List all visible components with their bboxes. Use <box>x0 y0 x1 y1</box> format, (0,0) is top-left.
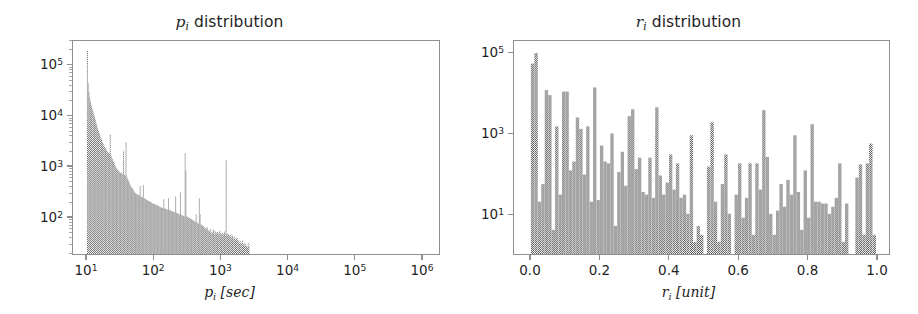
x-tick-major <box>529 255 530 260</box>
y-tick-minor <box>69 253 72 254</box>
y-tick-minor <box>69 123 72 124</box>
y-tick-minor <box>69 72 72 73</box>
y-tick-major <box>67 165 72 166</box>
y-tick-minor <box>69 171 72 172</box>
y-tick-minor <box>69 237 72 238</box>
y-tick-label: 101 <box>481 206 504 222</box>
y-tick-minor <box>69 67 72 68</box>
x-tick-major <box>738 255 739 260</box>
y-tick-major <box>508 214 513 215</box>
plot-area-p <box>73 41 439 254</box>
y-tick-minor <box>69 69 72 70</box>
x-tick-major <box>668 255 669 260</box>
y-tick-minor <box>69 228 72 229</box>
y-tick-major <box>67 216 72 217</box>
y-tick-minor <box>69 118 72 119</box>
x-tick-label: 0.2 <box>589 262 610 278</box>
y-tick-minor <box>69 219 72 220</box>
y-tick-minor <box>69 120 72 121</box>
y-tick-minor <box>69 177 72 178</box>
figure-two-histograms: pi distribution 102103104105101102103104… <box>0 0 918 314</box>
axes-p-distribution <box>72 40 440 255</box>
x-tick-major <box>807 255 808 260</box>
x-tick-major <box>599 255 600 260</box>
title-text-p: distribution <box>189 13 284 31</box>
y-tick-minor <box>69 181 72 182</box>
y-tick-minor <box>69 232 72 233</box>
y-tick-label: 103 <box>40 158 63 174</box>
y-tick-major <box>67 64 72 65</box>
xlabel-var-p: p <box>204 284 213 300</box>
y-tick-minor <box>69 174 72 175</box>
histogram-bars-p <box>73 41 439 254</box>
x-tick-major <box>220 255 221 260</box>
y-tick-label: 103 <box>481 125 504 141</box>
y-tick-minor <box>69 91 72 92</box>
y-tick-label: 105 <box>481 44 504 60</box>
xaxis-title-p: pi [sec] <box>0 284 459 302</box>
y-tick-minor <box>69 85 72 86</box>
xlabel-unit-r: [unit] <box>672 284 716 300</box>
title-var-p: p <box>175 13 185 31</box>
y-tick-minor <box>69 100 72 101</box>
xaxis-title-r: ri [unit] <box>459 284 918 302</box>
x-tick-label: 0.6 <box>727 262 748 278</box>
x-tick-label: 1.0 <box>866 262 887 278</box>
x-tick-label: 101 <box>74 262 97 278</box>
plot-area-r <box>514 41 889 254</box>
xlabel-var-r: r <box>662 284 669 300</box>
x-tick-major <box>421 255 422 260</box>
y-tick-major <box>67 115 72 116</box>
panel-title-p: pi distribution <box>0 13 459 32</box>
y-tick-minor <box>69 186 72 187</box>
y-tick-major <box>508 52 513 53</box>
y-tick-minor <box>69 193 72 194</box>
y-tick-minor <box>69 151 72 152</box>
axes-r-distribution <box>513 40 890 255</box>
y-tick-minor <box>69 135 72 136</box>
y-tick-minor <box>69 49 72 50</box>
x-tick-label: 102 <box>142 262 165 278</box>
x-tick-label: 0.4 <box>658 262 679 278</box>
y-tick-minor <box>69 202 72 203</box>
xlabel-unit-p: [sec] <box>216 284 255 300</box>
x-tick-label: 0.8 <box>797 262 818 278</box>
y-tick-minor <box>69 40 72 41</box>
title-text-r: distribution <box>647 13 742 31</box>
y-tick-minor <box>69 168 72 169</box>
y-tick-minor <box>69 76 72 77</box>
x-tick-label: 106 <box>410 262 433 278</box>
y-tick-minor <box>69 142 72 143</box>
y-tick-minor <box>69 131 72 132</box>
x-tick-label: 105 <box>343 262 366 278</box>
panel-title-r: ri distribution <box>459 13 918 32</box>
y-tick-minor <box>69 80 72 81</box>
x-tick-label: 0.0 <box>519 262 540 278</box>
y-tick-minor <box>69 244 72 245</box>
y-tick-minor <box>69 225 72 226</box>
x-tick-label: 104 <box>276 262 299 278</box>
x-tick-major <box>876 255 877 260</box>
panel-p-distribution: pi distribution 102103104105101102103104… <box>0 0 459 314</box>
y-tick-label: 102 <box>40 209 63 225</box>
x-tick-major <box>354 255 355 260</box>
panel-r-distribution: ri distribution 1011031050.00.20.40.60.8… <box>459 0 918 314</box>
y-tick-label: 105 <box>40 56 63 72</box>
histogram-bars-r <box>514 41 889 254</box>
y-tick-minor <box>69 127 72 128</box>
x-tick-label: 103 <box>209 262 232 278</box>
x-tick-major <box>287 255 288 260</box>
y-tick-minor <box>69 222 72 223</box>
x-tick-major <box>153 255 154 260</box>
x-tick-major <box>85 255 86 260</box>
y-tick-label: 104 <box>40 107 63 123</box>
y-tick-major <box>508 133 513 134</box>
